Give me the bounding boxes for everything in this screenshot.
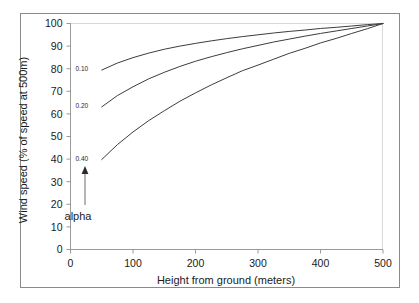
series-label-0.10: 0.10 (76, 65, 89, 72)
y-tick-label: 90 (51, 40, 63, 52)
y-tick-label: 70 (51, 85, 63, 97)
series-label-0.40: 0.40 (76, 155, 89, 162)
x-tick-label: 300 (249, 257, 267, 269)
x-tick-label: 100 (124, 257, 142, 269)
y-tick-label: 100 (45, 17, 63, 29)
x-tick-label: 500 (374, 257, 392, 269)
x-tick-label: 400 (312, 257, 330, 269)
y-tick-label: 50 (51, 130, 63, 142)
series-label-0.20: 0.20 (76, 102, 89, 109)
x-axis-title: Height from ground (meters) (157, 274, 295, 286)
x-tick-label: 200 (187, 257, 205, 269)
y-tick-label: 80 (51, 63, 63, 75)
wind-shear-chart-figure: 0102030405060708090100 0100200300400500 … (0, 0, 419, 303)
figure-border (21, 14, 400, 288)
alpha-annotation-label: alpha (65, 210, 93, 222)
chart-svg: 0102030405060708090100 0100200300400500 … (0, 0, 419, 303)
x-tick-label: 0 (68, 257, 74, 269)
y-axis-title: Wind speed (% of speed at 500m) (17, 57, 29, 223)
y-tick-label: 40 (51, 153, 63, 165)
y-tick-label: 30 (51, 176, 63, 188)
y-tick-label: 20 (51, 198, 63, 210)
y-tick-label: 60 (51, 108, 63, 120)
y-tick-label: 0 (57, 243, 63, 255)
y-tick-label: 10 (51, 221, 63, 233)
